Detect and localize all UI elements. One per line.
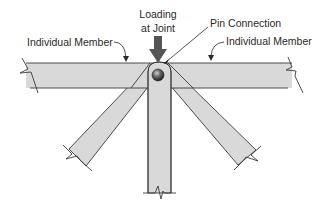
load-arrow-icon bbox=[149, 36, 167, 63]
loading-label-line2: at Joint bbox=[141, 22, 175, 34]
individual-member-label-right: Individual Member bbox=[226, 35, 312, 47]
individual-member-label-left: Individual Member bbox=[27, 36, 113, 48]
loading-label-line1: Loading bbox=[139, 8, 177, 20]
vertical-member bbox=[143, 62, 176, 199]
left-member-leader bbox=[114, 42, 129, 62]
right-member-leader bbox=[208, 42, 224, 61]
pin-icon bbox=[152, 69, 164, 81]
truss-joint-diagram: Loading at Joint Pin Connection Individu… bbox=[0, 0, 325, 206]
pin-connection-label: Pin Connection bbox=[210, 17, 281, 29]
